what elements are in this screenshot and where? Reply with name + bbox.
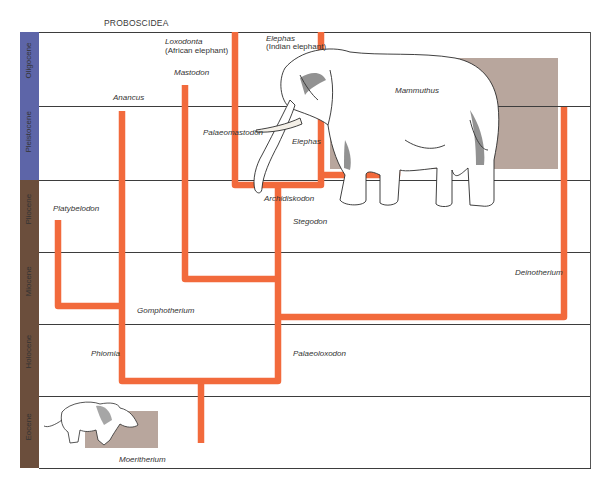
taxon-label-loxodonta: Loxodonta [165, 37, 202, 46]
taxon-label-moeritherium: Moeritherium [119, 455, 166, 464]
taxon-label-mastodon: Mastodon [174, 68, 209, 77]
taxon-label-gomphotherium: Gomphotherium [137, 306, 194, 315]
taxon-label-phiomia: Phiomia [91, 349, 120, 358]
taxon-label-archidiskodon: Archidiskodon [264, 194, 314, 203]
taxon-label-deinotherium: Deinotherium [515, 268, 563, 277]
taxon-label-platybelodon: Platybelodon [53, 204, 99, 213]
taxon-label-loxodonta-common: (African elephant) [165, 46, 228, 55]
branch-split-phiomia-palaeoloxodon [122, 111, 278, 381]
taxon-label-elephas: Elephas [292, 137, 321, 146]
taxon-label-stegodon: Stegodon [293, 217, 327, 226]
taxon-label-elephas-common: (Indian elephant) [266, 42, 326, 51]
taxon-label-palaeoloxodon: Palaeoloxodon [293, 349, 346, 358]
taxon-label-mammuthus: Mammuthus [395, 86, 439, 95]
phylogeny-tree [0, 0, 612, 493]
branch-platybelodon [58, 220, 122, 306]
taxon-label-palaeomastodon: Palaeomastodon [203, 128, 263, 137]
taxon-label-anancus: Anancus [113, 93, 144, 102]
moeritherium-illustration [44, 402, 138, 445]
